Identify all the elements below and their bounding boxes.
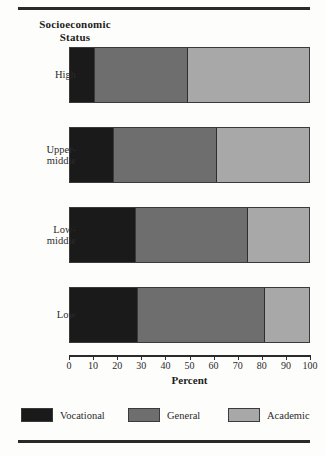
- bar-segment-general: [113, 128, 216, 182]
- bottom-rule: [18, 440, 310, 443]
- legend-label: Vocational: [60, 410, 105, 421]
- x-axis: [69, 355, 310, 357]
- bar-row: [69, 207, 310, 263]
- legend-swatch-general: [128, 408, 160, 422]
- x-tick-label: 90: [273, 360, 299, 371]
- y-tick-label-low: Low: [14, 309, 76, 321]
- bar-segment-academic: [247, 208, 309, 262]
- x-tick-label: 40: [152, 360, 178, 371]
- y-axis-title: Socioeconomic Status: [14, 18, 136, 44]
- y-tick-label-line: High: [14, 69, 76, 81]
- legend-item-vocational: Vocational: [21, 408, 105, 422]
- bar-segment-vocational: [70, 288, 137, 342]
- y-tick-label-high: High: [14, 69, 76, 81]
- figure: Socioeconomic Status 0102030405060708090…: [0, 0, 326, 456]
- legend-item-academic: Academic: [228, 408, 310, 422]
- x-axis-title: Percent: [69, 374, 310, 386]
- bar-segment-academic: [187, 48, 309, 102]
- x-tick-label: 70: [225, 360, 251, 371]
- legend-label: Academic: [267, 410, 310, 421]
- x-tick-label: 0: [56, 360, 82, 371]
- bar-segment-general: [137, 288, 264, 342]
- y-tick-label-line: middle: [14, 235, 76, 247]
- x-tick-label: 10: [80, 360, 106, 371]
- x-tick-label: 20: [104, 360, 130, 371]
- legend-swatch-academic: [228, 408, 260, 422]
- x-tick-label: 60: [201, 360, 227, 371]
- bar-segment-academic: [216, 128, 309, 182]
- bar-segment-academic: [264, 288, 309, 342]
- y-tick-label-low-middle: Low-middle: [14, 224, 76, 247]
- y-tick-label-line: Upper-: [14, 144, 76, 156]
- y-axis-title-line2: Status: [14, 31, 136, 44]
- x-tick-label: 100: [297, 360, 323, 371]
- plot-area: [69, 45, 310, 355]
- legend-swatch-vocational: [21, 408, 53, 422]
- y-tick-label-line: middle: [14, 155, 76, 167]
- x-tick-label: 50: [177, 360, 203, 371]
- legend-label: General: [167, 410, 200, 421]
- y-tick-label-line: Low-: [14, 224, 76, 236]
- top-rule: [18, 7, 310, 10]
- stacked-bar: [69, 207, 310, 263]
- stacked-bar: [69, 47, 310, 103]
- legend: VocationalGeneralAcademic: [0, 408, 326, 430]
- y-tick-label-line: Low: [14, 309, 76, 321]
- stacked-bar: [69, 287, 310, 343]
- bar-segment-vocational: [70, 208, 135, 262]
- bar-segment-general: [94, 48, 187, 102]
- y-tick-label-upper-middle: Upper-middle: [14, 144, 76, 167]
- bar-segment-vocational: [70, 128, 113, 182]
- x-tick-label: 80: [249, 360, 275, 371]
- bar-row: [69, 127, 310, 183]
- bar-row: [69, 47, 310, 103]
- bar-row: [69, 287, 310, 343]
- legend-item-general: General: [128, 408, 200, 422]
- x-tick-label: 30: [128, 360, 154, 371]
- y-axis-title-line1: Socioeconomic: [14, 18, 136, 31]
- bar-segment-general: [135, 208, 247, 262]
- stacked-bar: [69, 127, 310, 183]
